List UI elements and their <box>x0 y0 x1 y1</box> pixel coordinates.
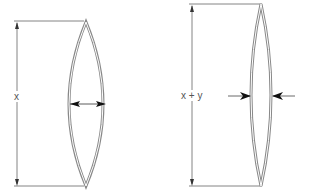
dimension-label-right: x + y <box>180 90 203 101</box>
right-figure <box>189 4 295 186</box>
dimension-label-left: x <box>13 91 20 102</box>
left-figure <box>14 21 106 186</box>
arrow-up-icon <box>15 22 19 29</box>
arrow-down-icon <box>15 179 19 186</box>
arrow-down-icon <box>190 179 194 186</box>
lens-inner-stroke <box>251 4 271 186</box>
lens-shape <box>251 4 271 186</box>
arrow-up-icon <box>190 5 194 12</box>
lens-diagram <box>0 0 310 196</box>
